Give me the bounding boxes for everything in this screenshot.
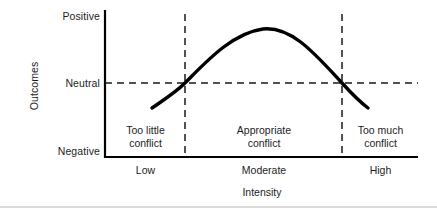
x-tick-label-low: Low <box>106 164 185 176</box>
region-label-appropriate-conflict: Appropriate conflict <box>186 124 342 150</box>
region-label-line1: Too little <box>106 124 185 137</box>
y-tick-label-neutral: Neutral <box>65 77 100 89</box>
region-label-line2: conflict <box>186 137 342 150</box>
y-tick-label-negative: Negative <box>58 145 100 157</box>
x-tick-label-moderate: Moderate <box>186 164 342 176</box>
region-label-line1: Appropriate <box>186 124 342 137</box>
region-label-too-much-conflict: Too much conflict <box>343 124 418 150</box>
x-axis-title: Intensity <box>106 186 418 198</box>
y-tick-label-positive: Positive <box>62 10 100 22</box>
region-label-line1: Too much <box>343 124 418 137</box>
region-label-line2: conflict <box>106 137 185 150</box>
x-tick-label-high: High <box>343 164 418 176</box>
conflict-intensity-outcomes-chart: Outcomes Positive Neutral Negative Too l… <box>0 0 437 219</box>
region-label-too-little-conflict: Too little conflict <box>106 124 185 150</box>
y-axis-title: Outcomes <box>28 31 44 141</box>
region-label-line2: conflict <box>343 137 418 150</box>
